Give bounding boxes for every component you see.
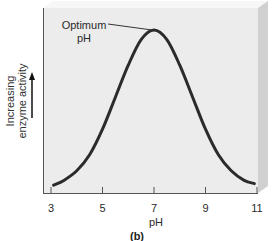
panel-top-bevel	[43, 1, 268, 8]
y-axis-label: Increasing enzyme activity	[4, 56, 30, 146]
enzyme-ph-figure: 357911 Optimum pH pH (b) Increasing enzy…	[0, 0, 274, 241]
x-axis-label: pH	[149, 216, 163, 228]
x-tick-label: 7	[151, 202, 157, 214]
x-tick-label: 11	[251, 202, 262, 214]
panel-side-face	[258, 1, 268, 193]
x-tick-label: 5	[99, 202, 105, 214]
y-axis-label-line1: Increasing	[4, 56, 16, 146]
x-axis-tick-labels: 357911	[48, 202, 263, 214]
optimum-label-line2: pH	[77, 32, 91, 44]
chart-plot: 357911 Optimum pH pH (b)	[0, 0, 274, 241]
optimum-label-line1: Optimum	[62, 19, 107, 31]
x-tick-label: 3	[48, 202, 54, 214]
panel-caption: (b)	[130, 230, 144, 241]
x-tick-label: 9	[202, 202, 208, 214]
y-axis-label-line2: enzyme activity	[16, 56, 28, 146]
